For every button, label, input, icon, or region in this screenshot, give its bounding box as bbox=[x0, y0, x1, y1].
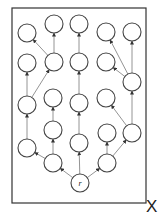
tree-node bbox=[97, 89, 115, 107]
tree-node bbox=[70, 53, 88, 71]
tree-node bbox=[97, 23, 115, 41]
tree-node bbox=[18, 24, 36, 42]
tree-node bbox=[123, 23, 141, 41]
frame-label: X bbox=[146, 197, 157, 217]
root-node: r bbox=[71, 174, 89, 192]
edge-arrow bbox=[113, 67, 125, 76]
tree-node bbox=[45, 53, 63, 71]
tree-diagram: r bbox=[0, 0, 159, 221]
edge-arrow bbox=[60, 168, 73, 177]
tree-node bbox=[18, 139, 36, 157]
edge-arrow bbox=[87, 168, 100, 177]
tree-node bbox=[44, 121, 62, 139]
tree-node bbox=[98, 124, 116, 142]
tree-node bbox=[45, 15, 63, 33]
tree-node bbox=[44, 154, 62, 172]
tree-node bbox=[18, 96, 36, 114]
tree-node bbox=[44, 89, 62, 107]
edge-arrow bbox=[113, 140, 126, 156]
edge-arrow bbox=[35, 152, 45, 158]
tree-node bbox=[18, 54, 36, 72]
tree-node bbox=[70, 134, 88, 152]
tree-node bbox=[70, 94, 88, 112]
edge-arrow bbox=[33, 40, 48, 56]
tree-node bbox=[70, 15, 88, 33]
tree-node bbox=[98, 154, 116, 172]
tree-node bbox=[123, 73, 141, 91]
tree-node bbox=[123, 124, 141, 142]
edge-arrow bbox=[111, 105, 126, 126]
tree-node bbox=[97, 53, 115, 71]
edge-arrow bbox=[79, 152, 80, 174]
